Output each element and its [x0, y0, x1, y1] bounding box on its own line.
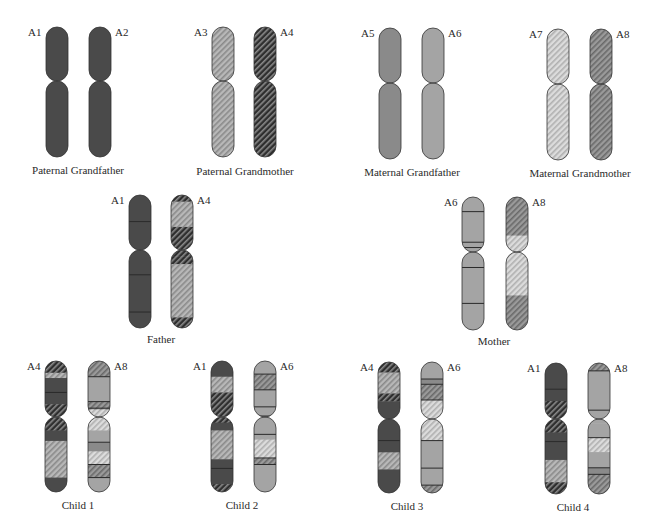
chromosome-a1 — [128, 194, 152, 329]
chromosome-a1 — [544, 362, 568, 495]
chromosome-a6 — [420, 361, 444, 494]
caption-child-3: Child 3 — [391, 500, 424, 512]
caption-paternal-grandfather: Paternal Grandfather — [32, 164, 124, 176]
chromosome-a8 — [589, 28, 613, 161]
chromosome-label: A2 — [115, 26, 128, 38]
chromosome-label: A4 — [360, 361, 373, 373]
chromosome-label: A5 — [361, 27, 374, 39]
chromosome-inheritance-diagram: A1A2Paternal GrandfatherA3A4Paternal Gra… — [0, 0, 658, 518]
chromosome-label: A6 — [447, 361, 460, 373]
chromosome-label: A1 — [193, 360, 206, 372]
chromosome-a6 — [461, 196, 485, 331]
chromosome-label: A4 — [197, 194, 210, 206]
chromosome-label: A6 — [280, 360, 293, 372]
chromosome-label: A8 — [114, 360, 127, 372]
chromosome-a7 — [546, 28, 570, 161]
caption-father: Father — [147, 333, 175, 345]
chromosome-a3 — [211, 26, 235, 158]
chromosome-a4 — [253, 26, 277, 158]
chromosome-a1 — [210, 360, 234, 493]
caption-child-2: Child 2 — [226, 499, 259, 511]
caption-child-1: Child 1 — [62, 499, 95, 511]
caption-maternal-grandfather: Maternal Grandfather — [364, 166, 460, 178]
chromosome-a8 — [505, 196, 529, 331]
chromosome-label: A1 — [28, 26, 41, 38]
chromosome-label: A8 — [532, 196, 545, 208]
chromosome-label: A4 — [280, 26, 293, 38]
caption-child-4: Child 4 — [557, 501, 590, 513]
chromosome-label: A6 — [444, 196, 457, 208]
chromosome-a6 — [421, 27, 445, 160]
chromosome-a4 — [377, 361, 401, 494]
chromosome-a5 — [378, 27, 402, 160]
chromosome-label: A8 — [616, 28, 629, 40]
chromosome-a8 — [587, 362, 611, 495]
chromosome-a1 — [45, 26, 69, 158]
chromosome-label: A6 — [448, 27, 461, 39]
chromosome-a2 — [88, 26, 112, 158]
chromosome-label: A4 — [27, 360, 40, 372]
caption-maternal-grandmother: Maternal Grandmother — [529, 167, 630, 179]
caption-mother: Mother — [478, 335, 510, 347]
chromosome-a8 — [87, 360, 111, 493]
chromosome-label: A3 — [194, 26, 207, 38]
chromosome-label: A1 — [111, 194, 124, 206]
caption-paternal-grandmother: Paternal Grandmother — [196, 165, 293, 177]
chromosome-a4 — [170, 194, 194, 329]
chromosome-label: A1 — [527, 362, 540, 374]
chromosome-label: A7 — [529, 28, 542, 40]
chromosome-a4 — [44, 360, 68, 493]
chromosome-a6 — [253, 360, 277, 493]
chromosome-label: A8 — [614, 362, 627, 374]
